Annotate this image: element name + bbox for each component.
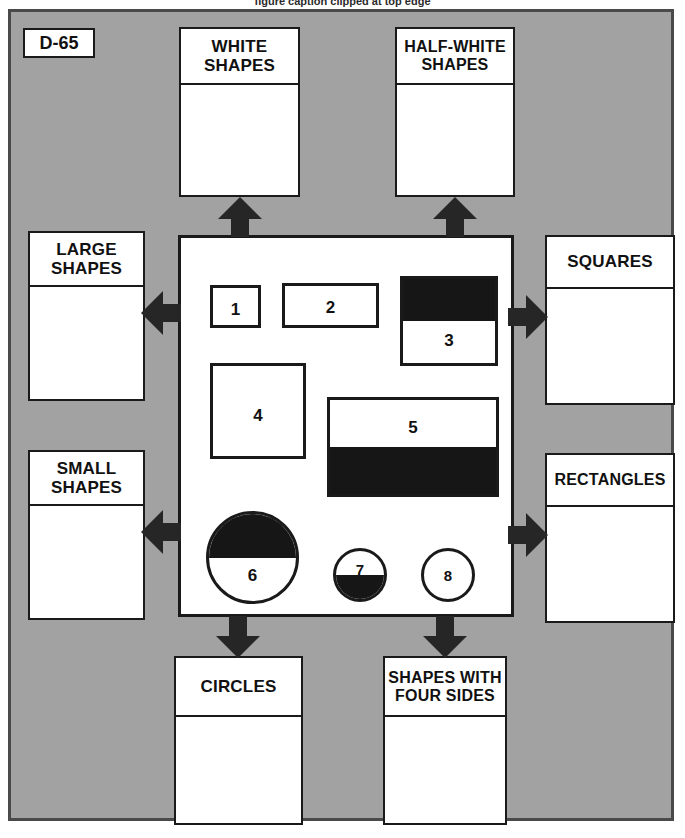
arrow-left-to-small-shapes-icon (141, 510, 181, 554)
diagram-frame: D-65 WHITE SHAPES HALF-WHITE SHAPES LARG… (8, 9, 674, 821)
category-box-small-shapes[interactable]: SMALL SHAPES (28, 450, 145, 620)
shape-pool: 1 2 3 4 5 6 7 8 (178, 235, 514, 617)
shape-7-number: 7 (336, 561, 384, 578)
shape-7-shaded-half (336, 575, 384, 599)
category-label-shapes-with-four-sides: SHAPES WITH FOUR SIDES (385, 658, 505, 717)
arrow-left-to-large-shapes-icon (141, 291, 181, 335)
category-box-white-shapes[interactable]: WHITE SHAPES (179, 27, 300, 197)
category-label-rectangles: RECTANGLES (547, 455, 673, 507)
arrow-right-to-rectangles-icon (508, 513, 548, 557)
shape-3-shaded-half (403, 279, 495, 321)
arrow-down-to-circles-icon (216, 616, 260, 658)
category-box-rectangles[interactable]: RECTANGLES (545, 453, 675, 623)
shape-1-number: 1 (213, 300, 258, 320)
shape-2-small-white-rectangle[interactable]: 2 (282, 283, 379, 328)
shape-3-large-half-white-square[interactable]: 3 (400, 276, 498, 366)
category-box-half-white-shapes[interactable]: HALF-WHITE SHAPES (395, 27, 515, 197)
shape-8-number: 8 (424, 567, 472, 584)
category-label-squares: SQUARES (547, 237, 673, 289)
category-box-circles[interactable]: CIRCLES (174, 656, 303, 825)
shape-7-small-half-white-circle[interactable]: 7 (333, 548, 387, 602)
shape-3-number: 3 (403, 331, 495, 351)
arrow-down-to-four-sides-icon (423, 616, 467, 658)
shape-6-number: 6 (209, 566, 296, 586)
diagram-identifier-tag: D-65 (23, 28, 95, 58)
shape-6-shaded-half (209, 514, 296, 558)
shape-5-shaded-half (330, 447, 496, 494)
shape-6-large-half-white-circle[interactable]: 6 (206, 511, 299, 604)
shape-2-number: 2 (285, 298, 376, 318)
shape-8-small-white-circle[interactable]: 8 (421, 548, 475, 602)
category-label-small-shapes: SMALL SHAPES (30, 452, 143, 506)
category-box-squares[interactable]: SQUARES (545, 235, 675, 405)
category-label-circles: CIRCLES (176, 658, 301, 717)
category-box-large-shapes[interactable]: LARGE SHAPES (28, 231, 145, 401)
category-box-shapes-with-four-sides[interactable]: SHAPES WITH FOUR SIDES (383, 656, 507, 825)
shape-4-number: 4 (213, 406, 303, 426)
shape-4-large-white-square[interactable]: 4 (210, 363, 306, 459)
category-label-half-white-shapes: HALF-WHITE SHAPES (397, 29, 513, 85)
shape-5-large-half-white-rectangle[interactable]: 5 (327, 397, 499, 497)
arrow-up-to-half-white-shapes-icon (433, 197, 477, 237)
category-label-white-shapes: WHITE SHAPES (181, 29, 298, 85)
diagram-identifier-label: D-65 (39, 33, 78, 54)
category-label-large-shapes: LARGE SHAPES (30, 233, 143, 287)
clipped-caption: figure caption clipped at top edge (0, 0, 685, 8)
arrow-up-to-white-shapes-icon (218, 197, 262, 237)
shape-1-small-white-square[interactable]: 1 (210, 285, 261, 328)
arrow-right-to-squares-icon (508, 295, 548, 339)
shape-5-number: 5 (330, 418, 496, 438)
